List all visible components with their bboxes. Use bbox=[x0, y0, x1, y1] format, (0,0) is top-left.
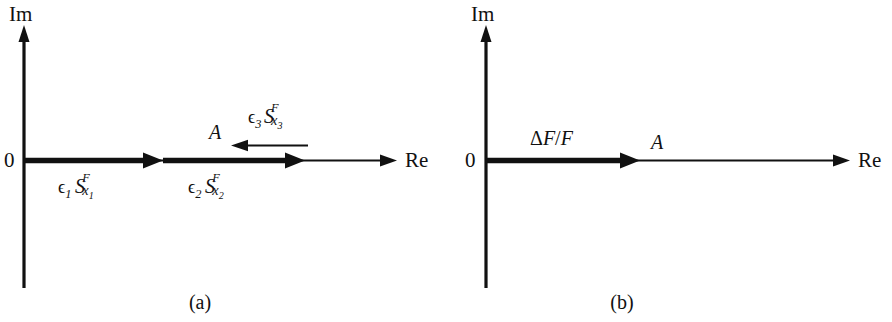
panel-caption-a: (a) bbox=[0, 292, 400, 312]
real-axis-label-b: Re bbox=[858, 150, 881, 171]
panel-a-graphics bbox=[0, 0, 446, 322]
epsilon-index-1: 1 bbox=[65, 187, 71, 201]
epsilon-index-3: 3 bbox=[255, 117, 261, 131]
delta-denominator: F bbox=[561, 127, 573, 149]
panel-a: Im Re 0 A ϵ1SFx1 ϵ2SFx2 ϵ3SFx3 (a) bbox=[0, 0, 446, 322]
panel-b-graphics bbox=[446, 0, 892, 322]
resultant-label-b: A bbox=[651, 132, 663, 152]
imaginary-axis-b bbox=[481, 25, 492, 288]
vector-label-delta-f-over-f: ΔF/F bbox=[530, 128, 573, 148]
delta-numerator: F bbox=[543, 127, 555, 149]
epsilon-index-2: 2 bbox=[195, 187, 201, 201]
vector-epsilon-3-a bbox=[231, 140, 308, 151]
origin-label-a: 0 bbox=[4, 150, 15, 171]
s-subscript-index-1: 1 bbox=[89, 190, 94, 201]
s-subscript-1: x1 bbox=[82, 183, 93, 197]
s-term-1: SFx1 bbox=[75, 176, 110, 196]
panel-b: Im Re 0 ΔF/F A (b) bbox=[446, 0, 892, 322]
resultant-label-a: A bbox=[209, 122, 221, 142]
s-term-3: SFx3 bbox=[264, 106, 299, 126]
panel-caption-b: (b) bbox=[572, 292, 672, 312]
vector-label-epsilon-3: ϵ3SFx3 bbox=[248, 106, 299, 126]
vector-delta-f-over-f-b bbox=[486, 153, 640, 169]
imaginary-axis-a bbox=[19, 25, 30, 288]
s-subscript-index-3: 3 bbox=[277, 120, 282, 131]
s-subscript-2: x2 bbox=[212, 183, 223, 197]
figure-vector-diagrams: Im Re 0 A ϵ1SFx1 ϵ2SFx2 ϵ3SFx3 (a) bbox=[0, 0, 892, 322]
imaginary-axis-label-b: Im bbox=[471, 4, 494, 25]
imaginary-axis-label-a: Im bbox=[9, 4, 32, 25]
origin-label-b: 0 bbox=[465, 150, 476, 171]
vector-epsilon-1-a bbox=[24, 153, 163, 169]
delta-glyph: Δ bbox=[530, 127, 543, 149]
s-subscript-index-2: 2 bbox=[219, 190, 224, 201]
s-subscript-3: x3 bbox=[271, 113, 282, 127]
vector-label-epsilon-2: ϵ2SFx2 bbox=[188, 176, 240, 196]
real-axis-label-a: Re bbox=[405, 150, 428, 171]
vector-epsilon-2-a bbox=[163, 153, 305, 169]
s-term-2: SFx2 bbox=[205, 176, 240, 196]
vector-label-epsilon-1: ϵ1SFx1 bbox=[58, 176, 110, 196]
